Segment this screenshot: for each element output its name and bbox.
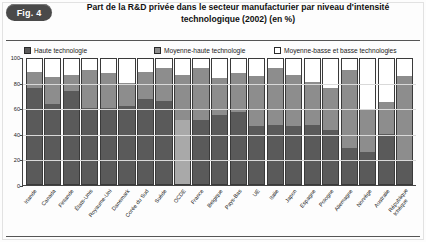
bar-segment-mh	[27, 72, 42, 88]
bar-segment-mh	[231, 73, 246, 112]
y-axis-tick-mark	[20, 186, 23, 187]
x-axis-label: Pays-Bas	[223, 188, 242, 210]
bar-segment-ml	[156, 59, 171, 68]
y-axis-tick-mark	[20, 135, 23, 136]
x-axis-label: Suède	[153, 188, 168, 204]
bar-segment-ml	[138, 59, 153, 72]
x-axis-label: UE	[251, 188, 261, 198]
legend-swatch-icon	[274, 47, 281, 54]
figure-container: Fig. 4 Part de la R&D privée dans le sec…	[0, 0, 426, 242]
bar-segment-ml	[268, 59, 283, 68]
x-axis-labels: IrlandeCanadaFinlandeÉtats-UnisRoyaume-U…	[22, 188, 422, 240]
chart-legend: Haute technologie Moyenne-haute technolo…	[6, 44, 420, 57]
bar-segment-mh	[82, 70, 97, 108]
bar-segment-mh	[360, 110, 375, 151]
bar-segment-hi	[379, 134, 394, 184]
bar-danemark[interactable]	[118, 58, 135, 185]
bar-norv-ge[interactable]	[359, 58, 376, 185]
x-axis-label: Canada	[40, 188, 57, 207]
bar-segment-hi	[212, 115, 227, 184]
bar-segment-mh	[138, 72, 153, 100]
bar-italie[interactable]	[267, 58, 284, 185]
legend-item-moyenne-haute-technologie: Moyenne-haute technologie	[154, 44, 245, 57]
bar-segment-mh	[101, 73, 116, 108]
bar-segment-hi	[342, 148, 357, 184]
legend-swatch-icon	[154, 47, 161, 54]
bar-pays-bas[interactable]	[230, 58, 247, 185]
bar-royaume-uni[interactable]	[100, 58, 117, 185]
bar-france[interactable]	[192, 58, 209, 185]
y-axis: 020406080100	[6, 58, 22, 190]
bar-segment-ml	[397, 59, 412, 76]
gridline	[23, 160, 416, 161]
legend-swatch-icon	[24, 47, 31, 54]
bar-r-publique-tch-que[interactable]	[396, 58, 413, 185]
bar-su-de[interactable]	[155, 58, 172, 185]
bar-pologne[interactable]	[322, 58, 339, 185]
bar-belgique[interactable]	[211, 58, 228, 185]
figure-number-badge: Fig. 4	[6, 4, 52, 21]
bar-segment-mh	[397, 76, 412, 160]
bar-irlande[interactable]	[26, 58, 43, 185]
bar-segment-ml	[175, 59, 190, 75]
bar-segment-ml	[249, 59, 264, 76]
x-axis-label: Allemagne	[333, 188, 354, 212]
x-axis-label: Espagne	[298, 188, 316, 209]
figure-header: Fig. 4 Part de la R&D privée dans le sec…	[0, 0, 426, 40]
x-axis-label: Japon	[284, 188, 298, 204]
bar-segment-hi	[231, 112, 246, 185]
bar-segment-hi	[175, 120, 190, 184]
bar-segment-mh	[193, 68, 208, 121]
bar-australie[interactable]	[378, 58, 395, 185]
bar-segment-hi	[101, 108, 116, 184]
x-axis-label: Italie	[268, 188, 280, 201]
bar-espagne[interactable]	[304, 58, 321, 185]
bar-segment-ml	[342, 59, 357, 70]
bar-ue[interactable]	[248, 58, 265, 185]
y-axis-tick-mark	[20, 84, 23, 85]
x-axis-label: OCDE	[172, 188, 187, 204]
bar-cor-e-du-sud[interactable]	[137, 58, 154, 185]
plot-canvas	[22, 58, 416, 186]
bar-segment-hi	[82, 108, 97, 184]
bar-segment-hi	[45, 104, 60, 184]
bar-segment-hi	[138, 99, 153, 184]
bar-segment-ml	[231, 59, 246, 73]
bar-segment-mh	[268, 68, 283, 126]
bar-segment-ml	[379, 59, 394, 102]
bar-segment-ml	[101, 59, 116, 73]
figure-title: Part de la R&D privée dans le secteur ma…	[58, 2, 418, 25]
bar-segment-ml	[45, 59, 60, 76]
y-axis-tick-mark	[20, 109, 23, 110]
legend-label: Moyenne-haute technologie	[164, 47, 245, 54]
bar-canada[interactable]	[44, 58, 61, 185]
bar-segment-ml	[360, 59, 375, 110]
bar-segment-hi	[360, 152, 375, 185]
bar-segment-mh	[305, 82, 320, 126]
bar-segment-ml	[286, 59, 301, 75]
legend-item-moyenne-basse-basse-technologies: Moyenne-basse et basse technologies	[274, 44, 397, 57]
bar-segment-ml	[193, 59, 208, 68]
footer-divider	[6, 236, 420, 237]
bar--tats-unis[interactable]	[81, 58, 98, 185]
bar-allemagne[interactable]	[341, 58, 358, 185]
bar-segment-mh	[175, 75, 190, 120]
bar-group	[23, 58, 416, 185]
y-axis-tick-label: 100	[11, 55, 20, 61]
legend-label: Haute technologie	[34, 47, 87, 54]
x-axis-label: Pologne	[318, 188, 335, 208]
bar-segment-hi	[156, 101, 171, 184]
bar-segment-hi	[193, 120, 208, 184]
gridline	[23, 109, 416, 110]
legend-label: Moyenne-basse et basse technologies	[284, 47, 397, 54]
bar-japon[interactable]	[285, 58, 302, 185]
x-axis-label: Finlande	[57, 188, 75, 208]
bar-segment-mh	[379, 102, 394, 135]
bar-finlande[interactable]	[63, 58, 80, 185]
bar-segment-ml	[64, 59, 79, 75]
chart-plot-area: 020406080100	[6, 58, 420, 190]
bar-segment-mh	[45, 77, 60, 105]
bar-segment-mh	[156, 68, 171, 102]
bar-ocde[interactable]	[174, 58, 191, 185]
gridline	[23, 135, 416, 136]
